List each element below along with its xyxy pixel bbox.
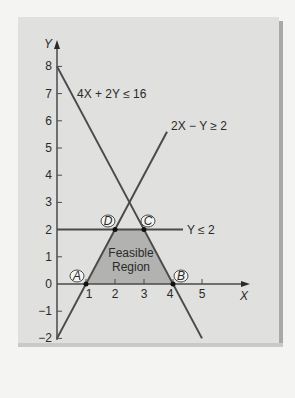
x-tick-1: 1 [86,287,93,301]
y-axis-title: Y [44,37,53,51]
point-c-badge: C [141,214,155,228]
y-tick-neg2: −2 [38,331,52,345]
point-a-badge: A [70,269,84,283]
point-a-dot [84,282,89,287]
x-tick-2: 2 [112,287,119,301]
x-axis-arrow-icon [241,281,250,287]
y-tick-8: 8 [45,59,52,73]
point-d-label: D [104,214,113,228]
constraint2-label: 2X − Y ≥ 2 [171,119,227,133]
y-tick-7: 7 [45,87,52,101]
point-b-dot [171,282,176,287]
y-tick-2: 2 [45,223,52,237]
region-label-line1: Feasible [108,246,154,260]
x-tick-labels: 1 2 3 4 5 [86,287,206,301]
y-tick-6: 6 [45,114,52,128]
y-tick-labels: 8 7 6 5 4 3 2 1 0 −1 −2 [38,59,52,345]
point-d-dot [113,227,118,232]
region-label-line2: Region [112,260,150,274]
point-a-label: A [72,269,81,283]
x-tick-5: 5 [199,287,206,301]
y-tick-5: 5 [45,141,52,155]
y-tick-0: 0 [45,277,52,291]
x-tick-4: 4 [167,287,174,301]
point-d-badge: D [101,214,115,228]
x-axis-title: X [239,289,249,303]
y-tick-1: 1 [45,250,52,264]
chart-svg: A B C D Feasible Region 4X + 2Y ≤ 16 2X … [0,0,295,398]
x-tick-3: 3 [141,287,148,301]
y-axis-arrow-icon [54,40,60,49]
constraint1-label: 4X + 2Y ≤ 16 [77,87,147,101]
y-tick-4: 4 [45,168,52,182]
point-b-badge: B [174,269,188,283]
point-b-label: B [177,269,185,283]
y-tick-3: 3 [45,195,52,209]
constraint-line-2x-y [57,132,167,339]
y-tick-neg1: −1 [38,304,52,318]
constraint3-label: Y ≤ 2 [187,223,215,237]
point-c-label: C [144,214,153,228]
